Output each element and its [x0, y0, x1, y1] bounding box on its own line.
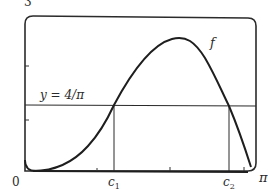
average-value-line [25, 105, 256, 106]
average-line-label: y = 4/π [39, 88, 85, 102]
c1-label: c1 [108, 175, 120, 190]
origin-label: 0 [12, 175, 20, 189]
x-end-pi-label: π [258, 170, 268, 185]
curve-f-label: f [209, 35, 217, 50]
chart-figure: 3 0 c1 c2 π f y = 4/π [0, 0, 268, 190]
c2-label: c2 [223, 175, 235, 190]
curve-f [33, 38, 251, 171]
y-top-label: 3 [24, 0, 32, 9]
